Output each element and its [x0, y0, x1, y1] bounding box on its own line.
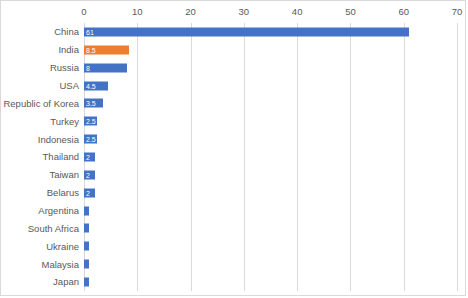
chart-row: Thailand2: [1, 148, 465, 166]
bar-south-africa[interactable]: [84, 224, 89, 233]
x-axis-tick-0: 0: [81, 6, 86, 17]
category-label-south-africa: South Africa: [1, 223, 84, 234]
bar-turkey[interactable]: 2.5: [84, 117, 97, 126]
chart-row: USA4.5: [1, 77, 465, 95]
category-label-thailand: Thailand: [1, 151, 84, 162]
x-axis-tick-20: 20: [185, 6, 196, 17]
category-label-ukraine: Ukraine: [1, 241, 84, 252]
category-label-russia: Russia: [1, 62, 84, 73]
chart-row: Belarus2: [1, 184, 465, 202]
category-label-belarus: Belarus: [1, 187, 84, 198]
category-label-japan: Japan: [1, 276, 84, 287]
bar-track: [84, 255, 465, 273]
chart-row: Japan: [1, 273, 465, 291]
bar-usa[interactable]: 4.5: [84, 81, 108, 90]
chart-row: China61: [1, 23, 465, 41]
bar-track: 2.5: [84, 112, 465, 130]
chart-row: Malaysia: [1, 255, 465, 273]
chart-row: Republic of Korea3.5: [1, 94, 465, 112]
bar-republic-of-korea[interactable]: 3.5: [84, 99, 103, 108]
bar-argentina[interactable]: [84, 206, 89, 215]
x-axis-tick-10: 10: [132, 6, 143, 17]
bar-malaysia[interactable]: [84, 260, 89, 269]
chart-row: India8.5: [1, 41, 465, 59]
bar-value-label: 8: [84, 64, 90, 71]
bar-value-label: 2: [84, 171, 90, 178]
chart-row: Taiwan2: [1, 166, 465, 184]
chart-row: South Africa: [1, 219, 465, 237]
bar-value-label: 3.5: [84, 100, 96, 107]
bar-china[interactable]: 61: [84, 27, 409, 36]
bar-track: [84, 237, 465, 255]
x-axis-tick-30: 30: [239, 6, 250, 17]
bar-belarus[interactable]: 2: [84, 188, 95, 197]
chart-plot-area: China61India8.5Russia8USA4.5Republic of …: [1, 23, 465, 291]
chart-row: Argentina: [1, 202, 465, 220]
bar-thailand[interactable]: 2: [84, 152, 95, 161]
chart-row: Indonesia2.5: [1, 130, 465, 148]
x-axis-tick-40: 40: [292, 6, 303, 17]
category-label-china: China: [1, 26, 84, 37]
bar-taiwan[interactable]: 2: [84, 170, 95, 179]
chart-row: Ukraine: [1, 237, 465, 255]
bar-chart: 010203040506070 China61India8.5Russia8US…: [0, 0, 466, 296]
bar-track: 2: [84, 166, 465, 184]
bar-value-label: 8.5: [84, 46, 96, 53]
x-axis-tick-70: 70: [452, 6, 463, 17]
category-label-republic-of-korea: Republic of Korea: [1, 98, 84, 109]
bar-value-label: 4.5: [84, 82, 96, 89]
x-axis-tick-50: 50: [345, 6, 356, 17]
category-label-taiwan: Taiwan: [1, 169, 84, 180]
x-axis-tick-60: 60: [398, 6, 409, 17]
bar-value-label: 2.5: [84, 118, 96, 125]
category-label-malaysia: Malaysia: [1, 259, 84, 270]
x-axis-tick-labels: 010203040506070: [1, 1, 465, 23]
bar-track: [84, 219, 465, 237]
bar-japan[interactable]: [84, 277, 89, 286]
bar-track: 2: [84, 148, 465, 166]
bar-india[interactable]: 8.5: [84, 45, 129, 54]
bar-track: 8.5: [84, 41, 465, 59]
bar-ukraine[interactable]: [84, 242, 89, 251]
bar-track: 4.5: [84, 77, 465, 95]
bar-track: 2: [84, 184, 465, 202]
bar-track: [84, 202, 465, 220]
bar-track: 61: [84, 23, 465, 41]
bar-russia[interactable]: 8: [84, 63, 127, 72]
bar-value-label: 2: [84, 189, 90, 196]
chart-row: Turkey2.5: [1, 112, 465, 130]
category-label-indonesia: Indonesia: [1, 134, 84, 145]
bar-track: 3.5: [84, 94, 465, 112]
category-label-india: India: [1, 44, 84, 55]
bar-value-label: 2: [84, 153, 90, 160]
bar-value-label: 2.5: [84, 136, 96, 143]
bar-indonesia[interactable]: 2.5: [84, 135, 97, 144]
bar-track: 2.5: [84, 130, 465, 148]
category-label-usa: USA: [1, 80, 84, 91]
category-label-argentina: Argentina: [1, 205, 84, 216]
bar-value-label: 61: [84, 28, 94, 35]
category-label-turkey: Turkey: [1, 116, 84, 127]
chart-row: Russia8: [1, 59, 465, 77]
bar-track: [84, 273, 465, 291]
bar-track: 8: [84, 59, 465, 77]
